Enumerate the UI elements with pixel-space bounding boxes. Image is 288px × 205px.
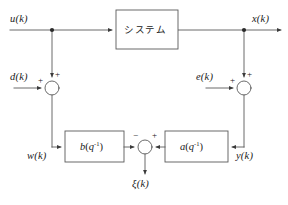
a-filter-block-label: a(q-1) [180,142,203,153]
summing-junction-d [45,81,59,95]
block-diagram: u(k) x(k) d(k) e(k) w(k) y(k) ξ(k) + + +… [0,0,288,205]
sign-d-left: + [38,76,43,85]
summing-junction-xi [138,140,152,154]
node-dot-u [50,28,54,32]
label-w-signal: w(k) [27,151,46,162]
b-filter-block-label: b(q-1) [80,142,103,153]
sign-xi-plus: + [152,131,157,140]
label-d-signal: d(k) [10,72,28,83]
label-y-signal: y(k) [236,151,253,162]
label-xi-signal: ξ(k) [132,179,149,190]
b-filter-paren-close: ) [99,141,103,152]
sign-d-top: + [55,70,60,79]
label-x-signal: x(k) [252,14,269,25]
sign-xi-minus: − [133,131,138,140]
system-block-label: システム [124,25,166,35]
summing-junction-e [237,81,251,95]
node-dot-x [242,28,246,32]
a-filter-paren-close: ) [199,141,203,152]
sign-e-left: + [230,76,235,85]
label-e-signal: e(k) [196,72,213,83]
sign-e-top: + [247,70,252,79]
label-u-signal: u(k) [10,14,28,25]
